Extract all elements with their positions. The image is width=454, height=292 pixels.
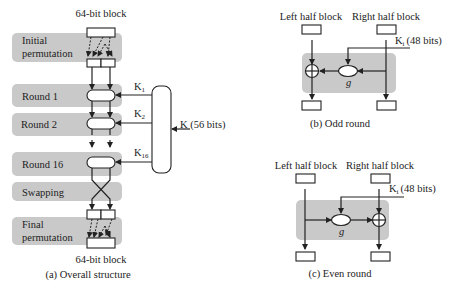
k1-label: K1 — [134, 81, 146, 94]
even-right-label: Right half block — [346, 160, 415, 171]
odd-right-out — [377, 101, 396, 110]
round-16-function — [87, 157, 115, 168]
even-g-label: g — [339, 226, 344, 237]
k16-label: K16 — [134, 147, 149, 160]
top-block-label: 64-bit block — [75, 8, 127, 19]
right-half-after-ip — [101, 59, 115, 67]
input-block — [87, 28, 115, 37]
des-diagram: 64-bit block Initial permutation Round 1… — [0, 0, 454, 292]
round-1-function — [87, 90, 115, 101]
round-2-function — [87, 118, 115, 129]
even-left-label: Left half block — [275, 160, 338, 171]
odd-right-in — [377, 25, 396, 34]
left-half-after-ip — [87, 59, 101, 67]
caption-overall: (a) Overall structure — [45, 269, 130, 281]
stage-label-round-1: Round 1 — [22, 91, 58, 102]
even-right-in — [371, 174, 390, 183]
even-left-in — [296, 174, 315, 183]
even-key-label: Ki(48 bits) — [389, 183, 436, 196]
key-generator — [152, 86, 171, 173]
stage-label-initial-1: Initial — [22, 35, 47, 46]
stage-label-initial-2: permutation — [22, 48, 73, 59]
right-half-before-fp — [101, 210, 115, 219]
stage-label-final-1: Final — [22, 219, 44, 230]
stage-label-round-2: Round 2 — [21, 119, 57, 130]
even-left-out — [296, 252, 315, 261]
master-key-label: K (56 bits) — [180, 119, 226, 131]
even-right-out — [371, 252, 390, 261]
overall-structure: 64-bit block Initial permutation Round 1… — [12, 8, 226, 281]
caption-odd: (b) Odd round — [310, 118, 371, 130]
odd-left-out — [302, 101, 321, 110]
output-block — [87, 238, 115, 248]
stage-label-final-2: permutation — [22, 232, 73, 243]
left-half-before-fp — [87, 210, 101, 219]
odd-right-label: Right half block — [352, 11, 421, 22]
odd-left-label: Left half block — [280, 11, 343, 22]
stage-label-swapping: Swapping — [22, 187, 65, 198]
caption-even: (c) Even round — [309, 268, 373, 280]
stage-label-round-16: Round 16 — [22, 159, 63, 170]
even-g-function — [332, 215, 351, 226]
k2-label: K2 — [134, 108, 146, 121]
bottom-block-label: 64-bit block — [75, 254, 127, 265]
even-round: Left half block Right half block g Ki(48… — [275, 160, 437, 280]
odd-round: Left half block Right half block g Ki(48… — [280, 11, 443, 130]
odd-g-function — [339, 66, 358, 77]
odd-left-in — [302, 25, 321, 34]
odd-key-label: Ki(48 bits) — [395, 35, 442, 48]
odd-g-label: g — [346, 77, 351, 88]
